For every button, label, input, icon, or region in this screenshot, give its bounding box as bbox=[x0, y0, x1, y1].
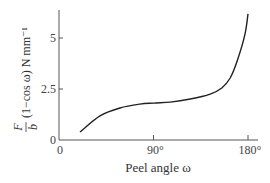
y-tick-label: 2.5 bbox=[41, 82, 56, 96]
y-label-numerator: F bbox=[11, 123, 25, 132]
x-axis-label: Peel angle ω bbox=[125, 160, 191, 175]
data-line bbox=[80, 14, 248, 132]
y-label-denominator: b bbox=[26, 124, 40, 130]
y-tick-label: 5 bbox=[50, 31, 56, 45]
x-tick-label: 0 bbox=[57, 143, 63, 157]
y-ticks: 02.55 bbox=[41, 31, 63, 147]
y-axis-label: F b (1−cos ω) N mm⁻¹ bbox=[11, 27, 40, 132]
y-label-rest: (1−cos ω) N mm⁻¹ bbox=[19, 27, 33, 118]
y-tick-label: 0 bbox=[50, 133, 56, 147]
x-tick-label: 90° bbox=[147, 143, 164, 157]
chart: 02.55 090°180° Peel angle ω F b (1−cos ω… bbox=[0, 0, 270, 183]
x-tick-label: 180° bbox=[239, 143, 262, 157]
x-ticks: 090°180° bbox=[57, 135, 262, 157]
